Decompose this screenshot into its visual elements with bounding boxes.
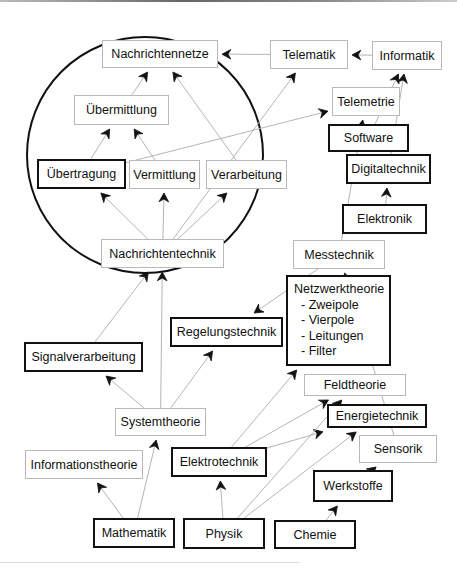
node-label: Sensorik [374,442,423,456]
arrowhead-icon [254,304,264,313]
communications-group-circle [27,37,263,273]
node-feldtheorie[interactable]: Feldtheorie [304,374,406,396]
arrowhead-icon [173,72,182,82]
node-label: Netzwerktheorie [294,282,384,298]
caption-line [0,560,300,566]
arrowhead-icon [139,72,148,82]
node-label: Werkstoffe [323,479,382,493]
node-nachrichtentechnik[interactable]: Nachrichtentechnik [101,239,224,268]
arrowhead-icon [346,432,356,441]
node-subitem-leitungen: - Leitungen [294,329,364,345]
node-netzwerktheorie[interactable]: Netzwerktheorie - Zweipole - Vierpole - … [286,275,391,366]
node-systemtheorie[interactable]: Systemtheorie [115,408,206,436]
node-label: Vermittlung [133,168,196,182]
node-label: Verarbeitung [211,168,282,182]
node-label: Systemtheorie [121,415,201,429]
node-label: Software [344,131,393,145]
node-informatik[interactable]: Informatik [372,41,442,70]
node-subitem-zweipole: - Zweipole [294,298,359,314]
node-label: Physik [206,527,243,541]
arrowhead-icon [101,129,110,139]
edge-elektrotechnik-to-netzwerktheorie [232,370,297,447]
node-label: Informationstheorie [30,458,137,472]
node-label: Signalverarbeitung [31,350,135,364]
node-werkstoffe[interactable]: Werkstoffe [313,470,393,502]
node-elektrotechnik[interactable]: Elektrotechnik [171,447,267,477]
node-uebermittlung[interactable]: Übermittlung [74,95,169,125]
arrowhead-icon [286,73,295,83]
node-telematik[interactable]: Telematik [270,40,348,69]
arrowhead-icon [328,506,337,516]
node-signalverarbeitung[interactable]: Signalverarbeitung [24,342,143,372]
node-uebertragung[interactable]: Übertragung [37,159,126,189]
node-label: Elektronik [357,212,412,226]
edge-nachrichtentechnik-to-uebertragung [101,193,148,239]
node-digitaltechnik[interactable]: Digitaltechnik [346,154,431,184]
arrowhead-icon [98,483,107,493]
node-telemetrie[interactable]: Telemetrie [332,87,400,116]
edge-systemtheorie-to-nachrichtentechnik [161,272,163,408]
node-label: Nachrichtennetze [111,47,208,61]
node-nachrichtennetze[interactable]: Nachrichtennetze [102,40,218,68]
edge-systemtheorie-to-regelungstechnik [171,351,213,408]
node-mathematik[interactable]: Mathematik [93,518,175,548]
node-label: Elektrotechnik [180,455,259,469]
arrowhead-icon [204,351,213,361]
node-energietechnik[interactable]: Energietechnik [327,404,427,428]
edge-systemtheorie-to-signalverarbeitung [106,376,144,408]
node-subitem-vierpole: - Vierpole [294,313,354,329]
node-physik[interactable]: Physik [183,518,265,549]
node-label: Telemetrie [337,95,395,109]
node-label: Digitaltechnik [351,162,425,176]
node-label: Messtechnik [304,248,373,262]
node-label: Übertragung [47,167,117,181]
node-subitem-filter: - Filter [294,344,336,360]
edge-signalverarbeitung-to-nachrichtentechnik [95,272,148,342]
node-vermittlung[interactable]: Vermittlung [129,160,200,189]
node-software[interactable]: Software [328,124,409,152]
node-verarbeitung[interactable]: Verarbeitung [206,160,287,189]
node-label: Nachrichtentechnik [109,247,215,261]
edge-elektrotechnik-to-feldtheorie [245,400,328,447]
node-elektronik[interactable]: Elektronik [342,204,427,234]
node-label: Feldtheorie [324,378,387,392]
node-sensorik[interactable]: Sensorik [359,435,437,463]
edge-elektrotechnik-to-energietechnik [267,432,323,448]
node-informationstheorie[interactable]: Informationstheorie [25,450,143,479]
arrowhead-icon [134,129,143,139]
node-label: Telematik [283,48,336,62]
node-label: Chemie [293,528,336,542]
node-label: Regelungstechnik [177,325,276,339]
node-messtechnik[interactable]: Messtechnik [293,240,385,269]
node-label: Energietechnik [336,409,419,423]
node-label: Mathematik [102,526,167,540]
node-regelungstechnik[interactable]: Regelungstechnik [170,317,283,347]
node-label: Übermittlung [86,103,157,117]
edge-mathematik-to-informationstheorie [98,483,124,518]
node-chemie[interactable]: Chemie [274,520,356,549]
edge-verarbeitung-to-nachrichtennetze [173,72,236,160]
node-label: Informatik [380,49,435,63]
